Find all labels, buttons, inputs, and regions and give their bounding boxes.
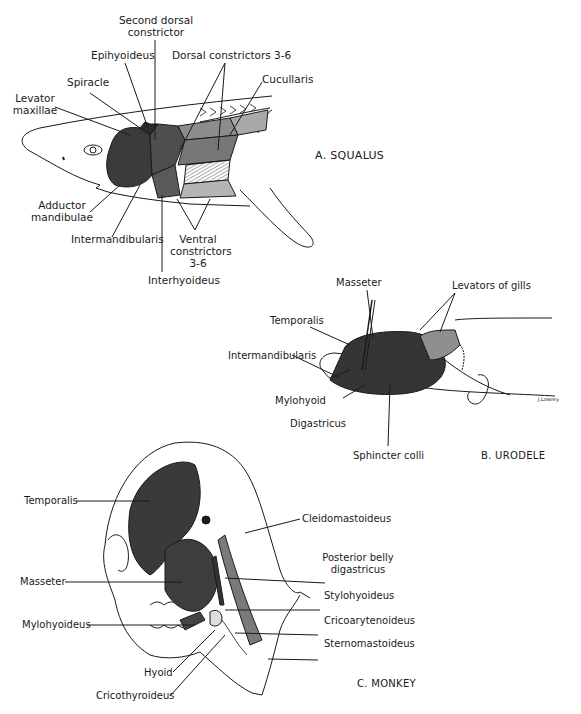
caption-monkey: C. MONKEY [357,678,416,689]
squalus-drawing [22,96,313,247]
label-temporalis-urodele: Temporalis [270,315,324,327]
label-adductor-mandibulae: Adductor mandibulae [30,199,94,223]
label-line: mandibulae [30,211,94,223]
label-line: Adductor [30,199,94,211]
label-cricothyroideus: Cricothyroideus [96,690,175,702]
label-interhyoideus: Interhyoideus [148,274,220,286]
label-line: Ventral [170,233,226,245]
label-line: constrictors [170,245,226,257]
label-line: constrictor [118,26,194,38]
label-line: digastricus [322,564,394,576]
label-intermandibularis-squalus: Intermandibularis [71,233,164,245]
label-masseter-monkey: Masseter [20,576,66,588]
label-line: Posterior belly [322,552,394,564]
label-levator-maxillae: Levator maxillae [10,92,60,116]
label-cricoarytenoideus: Cricoarytenoideus [324,615,415,627]
label-line: 3-6 [170,257,226,269]
label-line: Levator [10,92,60,104]
label-intermandibularis-urodele: Intermandibularis [228,350,316,362]
label-hyoid: Hyoid [144,667,173,679]
label-sphincter-colli: Sphincter colli [353,450,424,462]
urodele-drawing [320,300,555,404]
label-line: maxillae [10,104,60,116]
label-epihyoideus: Epihyoideus [91,49,155,61]
label-masseter-urodele: Masseter [336,277,382,289]
label-mylohyoid: Mylohyoid [275,395,326,407]
label-second-dorsal-constrictor: Second dorsal constrictor [118,14,194,38]
caption-squalus: A. SQUALUS [315,149,384,162]
label-posterior-belly-digastricus: Posterior belly digastricus [322,552,394,576]
label-stylohyoideus: Stylohyoideus [324,590,394,602]
artist-signature: J.Lowrey [538,393,559,405]
label-dorsal-constrictors: Dorsal constrictors 3-6 [172,49,291,61]
label-temporalis-monkey: Temporalis [24,495,78,507]
label-spiracle: Spiracle [67,76,109,88]
caption-urodele: B. URODELE [481,450,545,461]
label-line: Second dorsal [118,14,194,26]
monkey-drawing [104,442,310,695]
label-mylohyoideus: Mylohyoideus [22,619,91,631]
label-ventral-constrictors: Ventral constrictors 3-6 [170,233,226,269]
label-levators-of-gills: Levators of gills [452,280,531,292]
label-digastricus: Digastricus [290,418,346,430]
label-cleidomastoideus: Cleidomastoideus [302,513,391,525]
label-sternomastoideus: Sternomastoideus [324,638,415,650]
label-cucullaris: Cucullaris [262,73,313,85]
